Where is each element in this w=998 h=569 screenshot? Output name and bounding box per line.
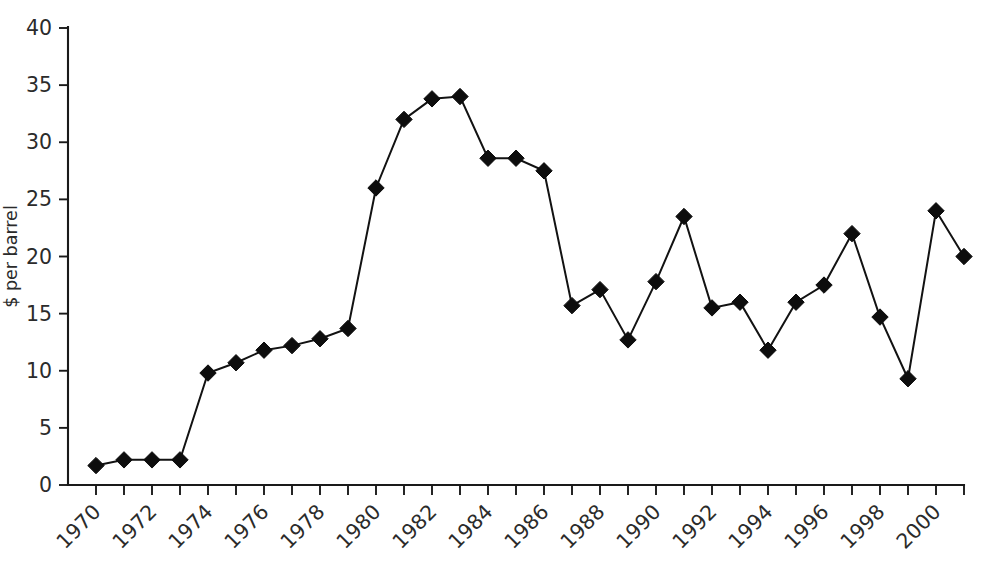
data-point-marker [452, 88, 468, 104]
x-axis-tick-label: 1988 [556, 500, 610, 554]
x-axis-tick-label: 1986 [500, 500, 554, 554]
y-axis-title-text: $ per barrel [1, 205, 21, 308]
y-axis-title: $ per barrel [1, 205, 21, 308]
data-point-marker [536, 163, 552, 179]
data-point-marker [396, 111, 412, 127]
x-axis-tick-label: 2000 [892, 500, 946, 554]
data-point-marker [788, 294, 804, 310]
data-point-marker [256, 342, 272, 358]
data-point-marker [872, 309, 888, 325]
data-point-marker [928, 203, 944, 219]
data-point-marker [704, 300, 720, 316]
x-axis-tick-label: 1998 [836, 500, 890, 554]
data-point-marker [732, 294, 748, 310]
data-point-marker [200, 365, 216, 381]
data-point-marker [228, 355, 244, 371]
x-axis-tick-label: 1976 [220, 500, 274, 554]
x-axis-tick-label: 1980 [332, 500, 386, 554]
data-point-marker [172, 452, 188, 468]
x-axis-tick-label: 1992 [668, 500, 722, 554]
x-axis-tick-label: 1984 [444, 500, 498, 554]
data-series-oil-price [88, 88, 972, 473]
data-point-marker [480, 150, 496, 166]
x-axis-tick-label: 1974 [164, 500, 218, 554]
data-point-marker [340, 320, 356, 336]
series-line [96, 97, 964, 466]
data-point-marker [368, 180, 384, 196]
x-axis-tick-label: 1970 [52, 500, 106, 554]
x-axis-tick-label: 1996 [780, 500, 834, 554]
data-point-marker [144, 452, 160, 468]
y-axis: 0510152025303540 [26, 16, 68, 497]
y-axis-tick-label: 30 [26, 130, 52, 154]
data-point-marker [508, 150, 524, 166]
x-axis: 1970197219741976197819801982198419861988… [52, 485, 964, 553]
data-point-marker [956, 248, 972, 264]
y-axis-tick-label: 15 [26, 302, 52, 326]
x-axis-tick-label: 1972 [108, 500, 162, 554]
y-axis-tick-label: 10 [26, 359, 52, 383]
data-point-marker [900, 371, 916, 387]
data-point-marker [592, 281, 608, 297]
data-point-marker [564, 297, 580, 313]
data-point-marker [676, 208, 692, 224]
data-point-marker [816, 277, 832, 293]
y-axis-tick-label: 40 [26, 16, 52, 40]
data-point-marker [424, 91, 440, 107]
data-point-marker [844, 225, 860, 241]
y-axis-tick-label: 20 [26, 245, 52, 269]
data-point-marker [312, 331, 328, 347]
y-axis-tick-label: 35 [26, 73, 52, 97]
y-axis-tick-label: 25 [26, 187, 52, 211]
x-axis-tick-label: 1982 [388, 500, 442, 554]
x-axis-tick-label: 1990 [612, 500, 666, 554]
x-axis-tick-label: 1978 [276, 500, 330, 554]
data-point-marker [116, 452, 132, 468]
x-axis-tick-label: 1994 [724, 500, 778, 554]
line-chart: 0510152025303540 19701972197419761978198… [0, 0, 998, 569]
data-point-marker [760, 342, 776, 358]
data-point-marker [620, 332, 636, 348]
data-point-marker [284, 337, 300, 353]
y-axis-tick-label: 0 [39, 473, 52, 497]
chart-container: 0510152025303540 19701972197419761978198… [0, 0, 998, 569]
y-axis-tick-label: 5 [39, 416, 52, 440]
data-point-marker [88, 457, 104, 473]
data-point-marker [648, 273, 664, 289]
